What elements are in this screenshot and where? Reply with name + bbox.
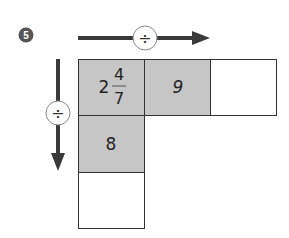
divide-icon: ÷ <box>51 104 64 123</box>
fraction-denominator: 7 <box>114 89 124 108</box>
problem-number-badge: 5 <box>19 28 34 43</box>
grid-cell-mixed-number <box>79 60 145 116</box>
arrowhead-right-icon <box>192 31 210 45</box>
cell-value-nine: 9 <box>173 77 184 97</box>
grid-cell-answer-bottom[interactable] <box>79 173 145 229</box>
vertical-arrow: ÷ <box>46 59 70 171</box>
cell-value-eight: 8 <box>106 134 117 154</box>
division-diagram: 5 ÷ ÷ 2 4 7 9 8 <box>0 0 289 238</box>
divide-icon: ÷ <box>138 29 151 48</box>
problem-number: 5 <box>23 30 29 41</box>
mixed-number-whole: 2 <box>99 77 110 97</box>
grid-cell-answer-right[interactable] <box>211 60 277 116</box>
arrowhead-down-icon <box>51 153 65 171</box>
horizontal-arrow: ÷ <box>78 26 210 50</box>
fraction-numerator: 4 <box>114 65 124 84</box>
